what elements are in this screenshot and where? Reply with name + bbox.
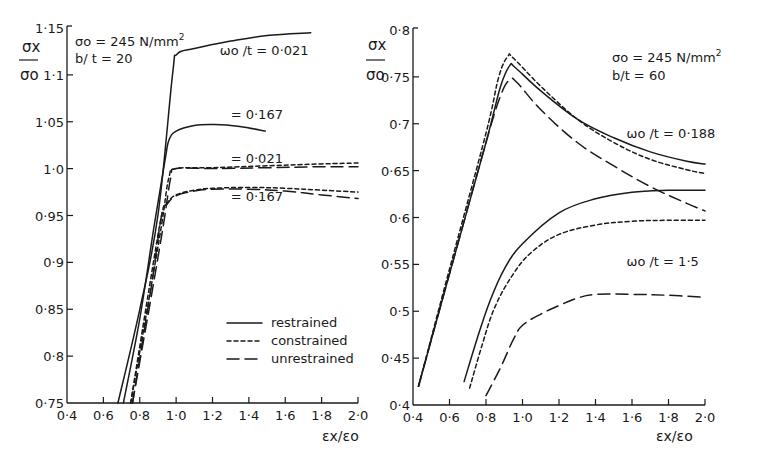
curve-label: = 0·167 (231, 189, 283, 204)
y-tick-label: 0·7 (389, 117, 410, 132)
right-xlabel: εx/εo (656, 428, 693, 444)
left-ylabel-numerator: σx (22, 38, 41, 56)
x-tick-label: 1·6 (622, 410, 643, 425)
x-tick-label: 2·0 (695, 410, 716, 425)
legend-label-restrained: restrained (271, 315, 337, 330)
y-tick-label: 0·55 (381, 257, 410, 272)
y-tick-label: 0·8 (43, 349, 64, 364)
y-tick-label: 0·5 (389, 304, 410, 319)
y-tick-label: 1·15 (35, 21, 64, 36)
x-tick-label: 0·8 (129, 408, 150, 423)
curve-constrained (470, 220, 705, 388)
y-tick-label: 0·75 (35, 396, 64, 411)
curve-restrained (464, 190, 705, 381)
y-tick-label: 1·05 (35, 115, 64, 130)
x-tick-label: 1·2 (202, 408, 223, 423)
y-tick-label: 0·9 (43, 255, 64, 270)
y-tick-label: 0·65 (381, 164, 410, 179)
x-tick-label: 1·4 (239, 408, 260, 423)
y-tick-label: 0·75 (381, 70, 410, 85)
y-tick-label: 0·45 (381, 351, 410, 366)
figure: 0·40·60·81·01·21·41·61·82·00·750·80·850·… (0, 0, 757, 463)
curve-restrained (419, 64, 706, 387)
x-tick-label: 1·2 (549, 410, 570, 425)
curve-label: ωo /t = 0·188 (627, 126, 716, 141)
y-tick-label: 0·6 (389, 211, 410, 226)
right-annotation-bt: b/t = 60 (612, 68, 665, 83)
y-tick-label: 1·1 (43, 68, 64, 83)
right-ylabel-denominator: σo (366, 66, 385, 84)
curve-label: ωo /t = 1·5 (627, 254, 699, 269)
chart-canvas: 0·40·60·81·01·21·41·61·82·00·750·80·850·… (0, 0, 757, 463)
right-annotation-sigma: σo = 245 N/mm2 (612, 48, 721, 65)
x-tick-label: 0·6 (93, 408, 114, 423)
y-tick-label: 1·0 (43, 162, 64, 177)
x-tick-label: 0·8 (476, 410, 497, 425)
y-tick-label: 0·8 (389, 23, 410, 38)
left-panel: 0·40·60·81·01·21·41·61·82·00·750·80·850·… (19, 21, 368, 444)
curve-label: ωo /t = 0·021 (220, 43, 309, 58)
x-tick-label: 2·0 (348, 408, 369, 423)
curve-unrestrained (486, 294, 705, 396)
x-tick-label: 1·0 (166, 408, 187, 423)
left-curve-labels: ωo /t = 0·021= 0·167= 0·021= 0·167 (220, 43, 309, 203)
left-annotation-sigma: σo = 245 N/mm2 (75, 32, 184, 49)
right-axes: 0·40·60·81·01·21·41·61·82·00·40·450·50·5… (381, 23, 715, 425)
y-tick-label: 0·95 (35, 209, 64, 224)
curve-label: = 0·167 (231, 107, 283, 122)
x-tick-label: 1·4 (585, 410, 606, 425)
x-tick-label: 1·6 (275, 408, 296, 423)
right-curve-labels: ωo /t = 0·188ωo /t = 1·5 (627, 126, 716, 269)
curve-unrestrained (133, 189, 359, 403)
right-curves (419, 54, 706, 396)
curve-label: = 0·021 (231, 151, 283, 166)
right-ylabel-numerator: σx (368, 36, 387, 54)
legend-label-constrained: constrained (271, 333, 348, 348)
y-tick-label: 0·85 (35, 302, 64, 317)
left-annotation-bt: b/ t = 20 (75, 51, 133, 66)
x-tick-label: 1·0 (512, 410, 533, 425)
x-tick-label: 1·8 (658, 410, 679, 425)
right-panel: 0·40·60·81·01·21·41·61·82·00·40·450·50·5… (366, 23, 721, 444)
left-xlabel: εx/εo (322, 428, 359, 444)
y-tick-label: 0·4 (389, 398, 410, 413)
legend-label-unrestrained: unrestrained (271, 351, 354, 366)
x-tick-label: 1·8 (311, 408, 332, 423)
legend: restrainedconstrainedunrestrained (227, 315, 354, 366)
left-ylabel-denominator: σo (20, 66, 39, 84)
x-tick-label: 0·6 (439, 410, 460, 425)
